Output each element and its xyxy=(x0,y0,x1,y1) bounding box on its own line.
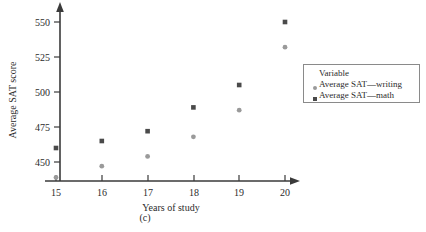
scatter-plot: 550 525 500 475 450 15 16 17 18 19 20 Ye… xyxy=(0,0,426,232)
data-point-math xyxy=(283,20,288,25)
x-tick-label: 15 xyxy=(51,187,61,198)
legend-item-writing: Average SAT—writing xyxy=(310,79,415,90)
data-point-math xyxy=(100,139,105,144)
x-axis-ticks xyxy=(56,175,285,181)
x-tick-label: 16 xyxy=(97,187,107,198)
data-point-writing xyxy=(283,45,288,50)
x-tick-label: 17 xyxy=(143,187,153,198)
y-axis-title: Average SAT score xyxy=(7,61,18,138)
legend-title: Variable xyxy=(319,68,415,79)
series-math-points xyxy=(54,20,288,151)
data-point-writing xyxy=(54,175,59,180)
data-point-writing xyxy=(145,154,150,159)
series-writing-points xyxy=(54,45,288,180)
y-tick-label: 550 xyxy=(35,17,50,28)
figure-caption: (c) xyxy=(0,212,290,223)
legend-label-writing: Average SAT—writing xyxy=(319,79,402,90)
legend-label-math: Average SAT—math xyxy=(319,90,394,101)
data-point-math xyxy=(191,105,196,110)
y-tick-label: 450 xyxy=(35,157,50,168)
y-tick-label: 475 xyxy=(35,122,50,133)
x-tick-label: 18 xyxy=(189,187,199,198)
y-tick-label: 525 xyxy=(35,52,50,63)
data-point-math xyxy=(237,83,242,88)
legend-marker-square-icon xyxy=(310,90,319,101)
legend-marker-circle-icon xyxy=(310,79,319,90)
y-axis-ticks xyxy=(54,22,60,162)
figure-container: 550 525 500 475 450 15 16 17 18 19 20 Ye… xyxy=(0,0,426,232)
x-tick-label: 20 xyxy=(280,187,290,198)
y-tick-label: 500 xyxy=(35,87,50,98)
data-point-writing xyxy=(191,134,196,139)
data-point-writing xyxy=(99,164,104,169)
data-point-math xyxy=(145,129,150,134)
x-tick-label: 19 xyxy=(234,187,244,198)
legend-box: Variable Average SAT—writing Average SAT… xyxy=(303,64,420,103)
data-point-writing xyxy=(237,108,242,113)
data-point-math xyxy=(54,146,59,151)
x-axis xyxy=(45,177,300,185)
legend-item-math: Average SAT—math xyxy=(310,90,415,101)
